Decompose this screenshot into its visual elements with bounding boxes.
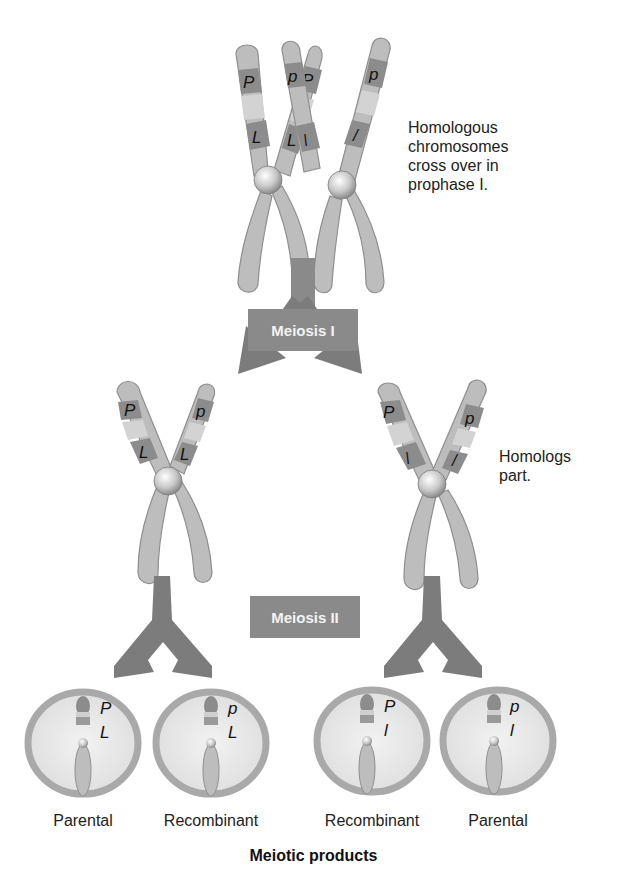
chromatid-p-L: p L [170,384,215,474]
gene-P: P [124,401,136,420]
gene-L: L [228,723,237,742]
gene-L: L [139,443,148,462]
gene-p: p [464,409,474,428]
chromatid-p-l: p / [432,380,486,480]
gene-L: L [287,131,296,150]
annotation-line: chromosomes [408,137,508,156]
chromatid-P-L: P L [117,382,172,479]
crossover-annotation: Homologous chromosomes cross over in pro… [408,118,508,194]
top-homolog-pair: P L P L p \ [236,38,390,293]
gene-p: p [509,697,519,716]
left-homolog-middle: P L p L [117,382,215,584]
product-label-3: Recombinant [312,812,432,830]
chromatid-P-l: P \ [378,383,436,482]
right-homolog-middle: P \ p / [378,380,486,589]
product-cell-2: p L [156,692,266,796]
gene-l: \ [405,449,410,468]
product-cell-3: P l [317,690,427,794]
gene-p: p [195,402,205,421]
chromatid-p-l: p / [338,38,390,184]
product-cell-4: p l [443,690,553,794]
gene-P: P [384,697,396,716]
annotation-line: cross over in [408,156,508,175]
annotation-line: prophase I. [408,175,508,194]
gene-p: p [227,699,237,718]
product-cell-1: P L [28,692,138,796]
gene-p: p [368,65,378,84]
gene-p: p [287,67,297,86]
meiosis-2-label: Meiosis II [250,596,360,638]
centromere [154,467,182,495]
gene-L: L [180,445,189,464]
product-label-4: Parental [438,812,558,830]
gene-P: P [100,699,112,718]
left-homolog-top: P L P L p \ [236,41,322,292]
gene-L: L [252,128,261,147]
product-label-1: Parental [23,812,143,830]
gene-L: L [100,723,109,742]
centromere [418,470,446,498]
centromere [328,171,356,199]
annotation-line: part. [499,466,571,485]
annotation-line: Homologous [408,118,508,137]
meiotic-products-title: Meiotic products [0,847,627,865]
right-homolog-top: p / [314,38,390,293]
meiosis-2-arrow-left [114,576,212,678]
centromere [254,166,282,194]
meiosis-1-label: Meiosis I [248,309,358,351]
gene-P: P [383,403,395,422]
annotation-line: Homologs [499,447,571,466]
chromatid-P-L-left: P L [236,45,270,176]
meiosis-2-arrow-right [384,576,482,678]
homologs-part-annotation: Homologs part. [499,447,571,485]
product-label-2: Recombinant [151,812,271,830]
diagram-canvas: P L P L p \ [0,0,627,882]
gene-P: P [243,73,255,92]
meiosis-diagram: P L P L p \ [0,0,627,882]
gene-l: \ [303,131,308,150]
